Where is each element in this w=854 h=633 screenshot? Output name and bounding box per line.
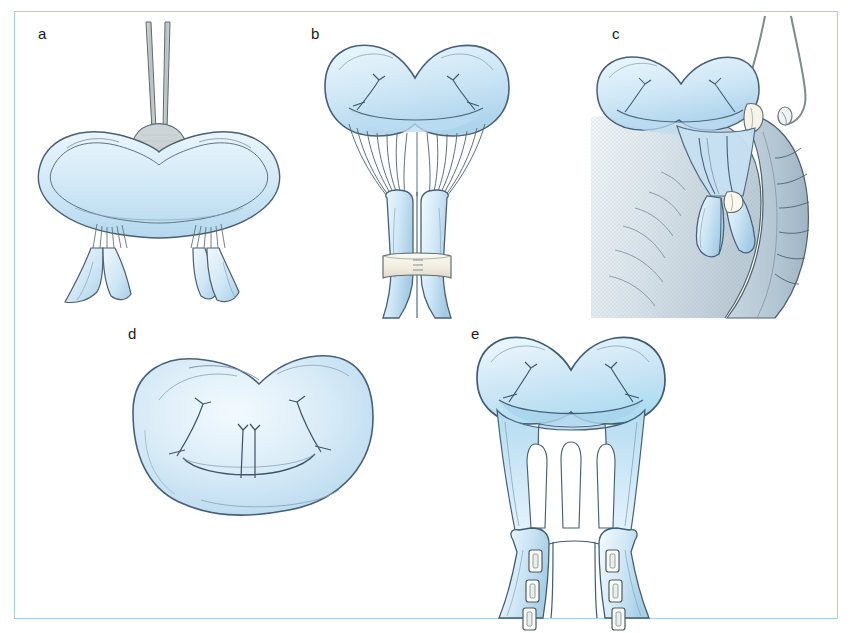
valve-leaflet-ring-c xyxy=(597,57,759,134)
panel-e-artwork xyxy=(435,312,735,620)
panel-label-d: d xyxy=(128,326,136,341)
skirt-fenestrations xyxy=(527,442,615,528)
panel-label-e: e xyxy=(471,326,479,341)
papillary-muscles-e xyxy=(499,528,649,630)
panel-a-artwork xyxy=(15,12,305,322)
figure-frame: a xyxy=(14,11,838,619)
forceps-group xyxy=(146,22,170,130)
panel-label-b: b xyxy=(311,26,319,41)
panel-a: a xyxy=(15,12,305,322)
panel-b: b xyxy=(287,12,547,322)
panel-d: d xyxy=(91,312,411,552)
valve-enface-view xyxy=(133,356,373,515)
panel-e: e xyxy=(435,312,735,620)
papillary-muscle-left xyxy=(65,224,131,303)
panel-b-artwork xyxy=(287,12,547,322)
valve-leaflet-ring xyxy=(325,45,509,136)
panel-label-c: c xyxy=(612,26,620,41)
membranous-skirt xyxy=(497,410,645,530)
panel-d-artwork xyxy=(91,312,411,552)
panel-label-a: a xyxy=(38,26,46,41)
encircling-band xyxy=(383,253,451,278)
valve-leaflet-ring-e xyxy=(477,337,665,426)
suture-loop xyxy=(778,107,792,125)
panel-c-artwork xyxy=(587,12,839,322)
papillary-muscles-bound xyxy=(383,190,451,318)
panel-c: c xyxy=(587,12,839,322)
papillary-muscle-right xyxy=(191,224,239,302)
pledget-lower xyxy=(724,191,743,212)
